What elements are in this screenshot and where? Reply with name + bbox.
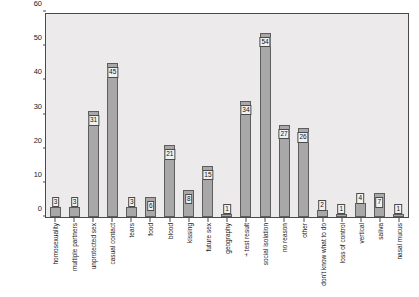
x-tick-label: nasal mucus [396,223,403,260]
x-tick-slot: homosexuality [45,218,64,297]
bar-value-label: 1 [395,204,403,215]
bar-value-label: 26 [298,132,309,143]
bar[interactable]: 21 [164,145,175,217]
y-tick-mark [43,11,46,12]
bar-slot: 3 [122,14,141,217]
bar[interactable]: 3 [126,207,137,217]
bar[interactable]: 1 [393,214,404,217]
bar-slot: 26 [294,14,313,217]
x-tick-label: saliva [377,223,384,240]
bar[interactable]: 31 [88,111,99,217]
bar-slot: 27 [275,14,294,217]
x-tick-label: geography [223,223,230,254]
bar-slot: 34 [236,14,255,217]
x-tick-slot: loss of control [332,218,351,297]
x-tick-label: food [147,223,154,236]
x-tick-label: loss of control [338,223,345,263]
bar-value-label: 4 [356,193,364,204]
bar-value-label: 3 [52,197,60,208]
x-tick-mark [54,218,55,222]
x-tick-mark [169,218,170,222]
bar-slot: 1 [217,14,236,217]
bar-slot: 1 [389,14,408,217]
bar-slot: 3 [46,14,65,217]
x-tick-label: no reason [281,223,288,252]
x-tick-label: vertical [358,223,365,244]
x-tick-mark [284,218,285,222]
x-tick-slot: other [294,218,313,297]
x-tick-slot: social isolation [256,218,275,297]
y-tick-label: 40 [34,67,46,76]
x-tick-mark [112,218,113,222]
x-tick-mark [246,218,247,222]
bar[interactable]: 1 [221,214,232,217]
x-tick-label: casual contact [109,223,116,265]
bar-value-label: 27 [278,129,289,140]
x-tick-label: kissing [185,223,192,243]
y-tick-label: 20 [34,135,46,144]
x-tick-slot: tears [122,218,141,297]
bar[interactable]: 4 [355,203,366,217]
x-tick-slot: multiple partners [64,218,83,297]
bar[interactable]: 3 [50,207,61,217]
bar-value-label: 34 [240,105,251,116]
bar[interactable]: 15 [202,166,213,217]
x-tick-label: unprotected sex [89,223,96,269]
bar-value-label: 1 [223,204,231,215]
bar-value-label: 21 [164,149,175,160]
x-tick-mark [226,218,227,222]
bar[interactable]: 6 [145,197,156,218]
bar-slot: 54 [256,14,275,217]
x-tick-mark [303,218,304,222]
x-tick-label: + test result [243,223,250,257]
bar[interactable]: 1 [336,214,347,217]
x-tick-label: tears [128,223,135,237]
x-tick-slot: nasal mucus [390,218,409,297]
x-tick-slot: saliva [371,218,390,297]
bar-value-label: 8 [185,194,193,205]
x-tick-slot: future sex [198,218,217,297]
y-tick-label: 0 [38,204,46,213]
bar-slot: 7 [370,14,389,217]
bar-value-label: 31 [88,115,99,126]
bar[interactable]: 8 [183,190,194,217]
x-tick-label: future sex [204,223,211,252]
bar-value-label: 45 [107,67,118,78]
x-tick-mark [131,218,132,222]
x-tick-mark [341,218,342,222]
x-tick-slot: geography [217,218,236,297]
bar[interactable]: 7 [374,193,385,217]
x-tick-slot: casual contact [102,218,121,297]
x-tick-slot: don't know what to do [313,218,332,297]
x-tick-mark [399,218,400,222]
chart-container: Frequency 0102030405060 3331453621815134… [0,0,419,297]
bar-slot: 31 [84,14,103,217]
bar-slot: 6 [141,14,160,217]
x-tick-label: don't know what to do [319,223,326,286]
y-tick-label: 50 [34,33,46,42]
x-tick-label: multiple partners [70,223,77,271]
x-tick-slot: no reason [275,218,294,297]
x-tick-mark [188,218,189,222]
bar-slot: 8 [179,14,198,217]
x-tick-slot: vertical [352,218,371,297]
bar[interactable]: 45 [107,63,118,217]
y-tick-label: 60 [34,0,46,8]
bar[interactable]: 27 [279,125,290,217]
bar-slot: 21 [160,14,179,217]
x-tick-slot: + test result [237,218,256,297]
bar-value-label: 7 [376,197,384,208]
bar-value-label: 15 [202,170,213,181]
y-tick-label: 30 [34,101,46,110]
bar[interactable]: 54 [260,33,271,218]
bar-slot: 3 [65,14,84,217]
x-axis-labels: homosexualitymultiple partnersunprotecte… [45,218,409,297]
bar[interactable]: 34 [240,101,251,217]
x-tick-slot: unprotected sex [83,218,102,297]
x-tick-mark [265,218,266,222]
x-tick-mark [380,218,381,222]
bar[interactable]: 2 [317,210,328,217]
bar[interactable]: 26 [298,128,309,217]
bar[interactable]: 3 [69,207,80,217]
plot-area: 0102030405060 33314536218151345427262147… [45,13,409,218]
